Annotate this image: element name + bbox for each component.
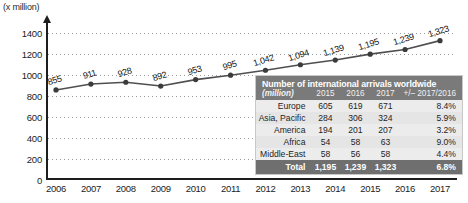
value-delta: 3.2%	[400, 124, 462, 136]
value-delta: 5.9%	[400, 112, 462, 124]
series-marker	[298, 62, 303, 67]
series-marker	[333, 57, 338, 62]
x-tick-label: 2015	[360, 183, 380, 194]
x-tick-label: 2007	[81, 183, 101, 194]
value-2017: 63	[370, 136, 400, 148]
region-name: Africa	[256, 136, 310, 148]
value-2017: 324	[370, 112, 400, 124]
value-2016: 58	[340, 136, 370, 148]
value-2017: 671	[370, 100, 400, 112]
value-2015: 58	[310, 148, 340, 160]
region-name: Europe	[256, 100, 310, 112]
value-delta: 4.4%	[400, 148, 462, 160]
value-2016: 306	[340, 112, 370, 124]
y-tick-label: 600	[27, 111, 42, 122]
series-marker	[437, 38, 442, 43]
value-2017: 207	[370, 124, 400, 136]
series-marker	[228, 73, 233, 78]
series-marker	[123, 80, 128, 85]
chart-figure: (x million) 0200400600800100012001400 20…	[0, 0, 468, 203]
value-2015: 284	[310, 112, 340, 124]
total-2017: 1,323	[370, 160, 400, 174]
y-tick-label: 0	[37, 175, 42, 186]
region-name: America	[256, 124, 310, 136]
column-header-2017: 2017	[370, 89, 400, 100]
value-2016: 619	[340, 100, 370, 112]
x-tick-label: 2014	[325, 183, 345, 194]
x-tick-label: 2006	[46, 183, 66, 194]
x-tick-label: 2012	[255, 183, 275, 194]
y-tick-label: 1000	[22, 69, 42, 80]
series-marker	[368, 52, 373, 57]
series-marker	[88, 81, 93, 86]
table-title-row: Number of international arrivals worldwi…	[256, 76, 462, 89]
y-tick-label: 1400	[22, 27, 42, 38]
y-tick-label: 800	[27, 90, 42, 101]
value-2015: 605	[310, 100, 340, 112]
value-2016: 201	[340, 124, 370, 136]
y-tick-label: 400	[27, 132, 42, 143]
x-tick-label: 2008	[116, 183, 136, 194]
x-tick-label: 2009	[151, 183, 171, 194]
total-delta: 6.8%	[400, 160, 462, 174]
table-title: Number of international arrivals worldwi…	[256, 76, 462, 89]
value-2015: 194	[310, 124, 340, 136]
x-tick-label: 2011	[221, 183, 240, 194]
region-name: Middle-East	[256, 148, 310, 160]
column-header-2016: 2016	[340, 89, 370, 100]
table-total-row: Total 1,195 1,239 1,323 6.8%	[256, 160, 462, 174]
value-2016: 56	[340, 148, 370, 160]
y-tick-label: 200	[27, 153, 42, 164]
column-header-2015: 2015	[310, 89, 340, 100]
table-column-header-row: (million) 2015 2016 2017 +/– 2017/2016	[256, 89, 462, 100]
table-row: Africa5458639.0%	[256, 136, 462, 148]
arrivals-data-table: Number of international arrivals worldwi…	[256, 76, 462, 174]
value-2015: 54	[310, 136, 340, 148]
table-row: America1942012073.2%	[256, 124, 462, 136]
value-delta: 9.0%	[400, 136, 462, 148]
table-unit-label: (million)	[256, 89, 310, 100]
value-2017: 58	[370, 148, 400, 160]
total-label: Total	[256, 160, 310, 174]
table-row: Europe6056196718.4%	[256, 100, 462, 112]
table-row: Middle-East5856584.4%	[256, 148, 462, 160]
table-body: Europe6056196718.4%Asia, Pacific28430632…	[256, 100, 462, 160]
value-delta: 8.4%	[400, 100, 462, 112]
x-tick-label: 2017	[430, 183, 450, 194]
series-marker	[158, 83, 163, 88]
x-tick-label: 2010	[186, 183, 206, 194]
x-tick-label: 2013	[290, 183, 310, 194]
y-axis-unit-label: (x million)	[3, 2, 39, 12]
series-marker	[193, 77, 198, 82]
series-marker	[402, 47, 407, 52]
series-marker	[263, 68, 268, 73]
series-marker	[53, 87, 58, 92]
total-2015: 1,195	[310, 160, 340, 174]
region-name: Asia, Pacific	[256, 112, 310, 124]
total-2016: 1,239	[340, 160, 370, 174]
table-row: Asia, Pacific2843063245.9%	[256, 112, 462, 124]
y-tick-label: 1200	[22, 48, 42, 59]
column-header-delta: +/– 2017/2016	[400, 89, 462, 100]
x-tick-label: 2016	[395, 183, 415, 194]
